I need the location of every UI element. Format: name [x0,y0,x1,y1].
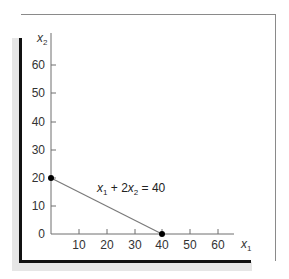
x-tick-label: 50 [183,238,197,252]
x-tick-label: 20 [100,238,114,252]
y-tick-label: 0 [38,227,45,241]
x-axis-label: x1 [240,237,252,253]
y-tick-label: 30 [32,143,46,157]
x-tick-label: 40 [155,238,169,252]
y-tick-label: 60 [32,58,46,72]
x-tick-label: 60 [211,238,225,252]
equation-label: x1 + 2x2 = 40 [96,181,166,197]
x-tick-label: 30 [128,238,142,252]
chart-plot: 0 10 20 30 40 50 60 10 20 30 40 50 60 x2… [0,0,289,279]
y-tick-label: 10 [32,199,46,213]
y-tick-labels: 0 10 20 30 40 50 60 [32,58,46,241]
intercept-marker-x2 [48,175,54,181]
y-tick-label: 50 [32,86,46,100]
y-tick-label: 40 [32,115,46,129]
x-tick-labels: 10 20 30 40 50 60 [72,238,225,252]
y-ticks [51,65,56,206]
intercept-marker-x1 [159,231,165,237]
y-tick-label: 20 [32,171,46,185]
x-tick-label: 10 [72,238,86,252]
y-axis-label: x2 [36,31,48,47]
x-ticks [79,229,218,234]
